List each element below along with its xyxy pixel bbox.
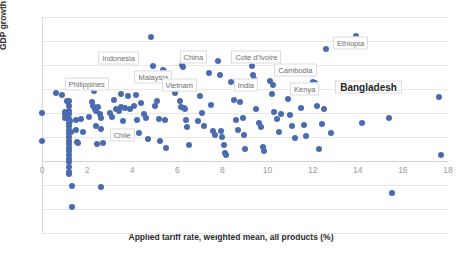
data-point [237, 99, 243, 105]
data-point [100, 140, 106, 146]
data-point [292, 135, 298, 141]
data-point [261, 148, 267, 154]
data-point [206, 70, 212, 76]
data-point [319, 121, 325, 127]
data-point [436, 94, 442, 100]
data-point [66, 171, 72, 177]
data-point [276, 129, 282, 135]
point-label: India [234, 79, 258, 92]
data-point [180, 64, 186, 70]
data-point [303, 133, 309, 139]
data-point [298, 105, 304, 111]
gridline [42, 113, 448, 114]
data-point [241, 132, 247, 138]
data-point [118, 91, 124, 97]
data-point [197, 93, 203, 99]
point-label: Chile [110, 128, 135, 141]
data-point [231, 97, 237, 103]
data-point [69, 183, 75, 189]
zero-axis-line [42, 161, 448, 162]
data-point [249, 63, 255, 69]
data-point [98, 126, 104, 132]
point-label: China [180, 50, 208, 63]
data-point [134, 117, 140, 123]
data-point [289, 123, 295, 129]
data-point [314, 103, 320, 109]
data-point [274, 116, 280, 122]
point-label: Vietnam [162, 79, 197, 92]
data-point [98, 184, 104, 190]
data-point [233, 117, 239, 123]
data-point [201, 123, 207, 129]
data-point [438, 152, 444, 158]
data-point [111, 97, 117, 103]
data-point [162, 117, 168, 123]
data-point [389, 190, 395, 196]
data-point [59, 92, 65, 98]
data-point [86, 114, 92, 120]
data-point [253, 106, 259, 112]
x-tick-label: 16 [398, 166, 407, 175]
data-point [301, 122, 307, 128]
data-point [287, 112, 293, 118]
data-point [136, 130, 142, 136]
x-tick-label: 18 [443, 166, 452, 175]
point-label: Bangladesh [335, 80, 402, 93]
data-point [235, 127, 241, 133]
data-point [39, 138, 45, 144]
gridline [42, 41, 448, 42]
data-point [95, 104, 101, 110]
data-point [359, 120, 365, 126]
gridline [42, 209, 448, 210]
data-point [328, 130, 334, 136]
data-point [157, 138, 163, 144]
x-tick-label: 2 [85, 166, 90, 175]
data-point [78, 116, 84, 122]
gridline [42, 65, 448, 66]
x-tick-label: 12 [308, 166, 317, 175]
data-point [321, 106, 327, 112]
data-point [120, 118, 126, 124]
data-point [154, 98, 160, 104]
data-point [212, 132, 218, 138]
scatter-chart: GDP growth (Avg 2000-18, %) Applied tari… [0, 0, 462, 267]
point-label: Cote d'Ivoire [231, 50, 281, 63]
data-point [150, 63, 156, 69]
gridline [42, 17, 448, 18]
y-axis-title: GDP growth (Avg 2000-18, %) [0, 0, 8, 50]
data-point [316, 146, 322, 152]
data-point [285, 96, 291, 102]
point-label: Kenya [290, 83, 319, 96]
x-tick-label: 0 [40, 166, 45, 175]
data-point [143, 115, 149, 121]
data-point [98, 115, 104, 121]
data-point [386, 115, 392, 121]
data-point [145, 136, 151, 142]
data-point [125, 93, 131, 99]
data-point [75, 140, 81, 146]
data-point [109, 114, 115, 120]
data-point [223, 152, 229, 158]
data-point [278, 111, 284, 117]
x-tick-label: 14 [353, 166, 362, 175]
point-label: Cambodia [274, 63, 316, 76]
data-point [53, 90, 59, 96]
x-tick-label: 6 [175, 166, 180, 175]
data-point [80, 129, 86, 135]
data-point [131, 103, 137, 109]
data-point [270, 82, 276, 88]
data-point [199, 110, 205, 116]
plot-area: -6-4-2024681012 024681012141618 Indonesi… [42, 17, 448, 233]
data-point [258, 124, 264, 130]
data-point [208, 102, 214, 108]
data-point [195, 118, 201, 124]
data-point [184, 124, 190, 130]
data-point [163, 145, 169, 151]
x-tick-label: 10 [263, 166, 272, 175]
y-axis-line [42, 17, 43, 233]
data-point [323, 46, 329, 52]
data-point [73, 127, 79, 133]
data-point [182, 106, 188, 112]
data-point [39, 110, 45, 116]
x-tick-label: 8 [220, 166, 225, 175]
